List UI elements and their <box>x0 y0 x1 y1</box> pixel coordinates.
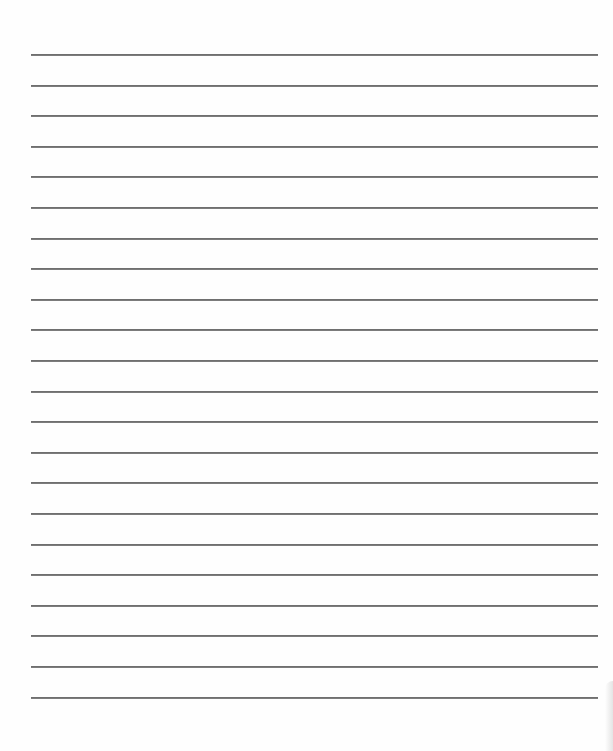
ruled-line <box>31 299 598 301</box>
ruled-line <box>31 329 598 331</box>
ruled-line <box>31 54 598 56</box>
ruled-line <box>31 482 598 484</box>
ruled-line <box>31 605 598 607</box>
ruled-line <box>31 391 598 393</box>
page-corner-shadow <box>605 681 613 751</box>
ruled-line <box>31 176 598 178</box>
ruled-line <box>31 146 598 148</box>
ruled-line <box>31 697 598 699</box>
ruled-line <box>31 360 598 362</box>
ruled-line <box>31 666 598 668</box>
ruled-line <box>31 238 598 240</box>
ruled-line <box>31 115 598 117</box>
ruled-line <box>31 635 598 637</box>
ruled-line <box>31 544 598 546</box>
ruled-line <box>31 268 598 270</box>
ruled-line <box>31 452 598 454</box>
ruled-line <box>31 207 598 209</box>
ruled-line <box>31 85 598 87</box>
ruled-line <box>31 574 598 576</box>
ruled-line <box>31 513 598 515</box>
ruled-line <box>31 421 598 423</box>
lined-paper-page <box>0 0 613 751</box>
